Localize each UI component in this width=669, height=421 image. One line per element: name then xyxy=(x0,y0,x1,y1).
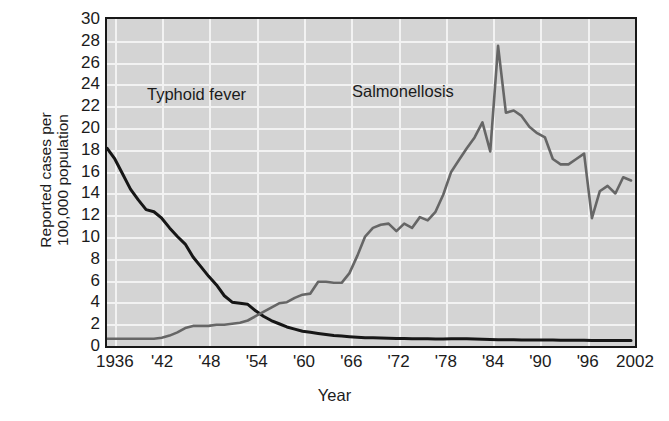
series-lines xyxy=(107,19,635,346)
y-tick-28: 28 xyxy=(48,32,100,49)
y-tick-26: 26 xyxy=(48,54,100,71)
y-tick-30: 30 xyxy=(48,10,100,27)
x-tick-1966: '66 xyxy=(340,352,362,372)
y-tick-16: 16 xyxy=(48,163,100,180)
y-tick-24: 24 xyxy=(48,75,100,92)
plot-inner: Typhoid fever Salmonellosis xyxy=(107,19,635,346)
x-tick-1948: '48 xyxy=(198,352,220,372)
x-axis-ticks: 1936'42'48'54'60'66'72'78'84'90'962002 xyxy=(0,352,669,376)
series-label-salmonellosis: Salmonellosis xyxy=(352,82,454,101)
y-tick-20: 20 xyxy=(48,119,100,136)
x-tick-1972: '72 xyxy=(388,352,410,372)
x-tick-1942: '42 xyxy=(151,352,173,372)
chart-figure: Reported cases per 100,000 population 30… xyxy=(0,0,669,421)
x-tick-2002: 2002 xyxy=(616,352,654,372)
x-tick-1996: '96 xyxy=(577,352,599,372)
y-tick-14: 14 xyxy=(48,184,100,201)
y-tick-4: 4 xyxy=(48,293,100,310)
x-tick-1936: 1936 xyxy=(96,352,134,372)
x-tick-1954: '54 xyxy=(246,352,268,372)
y-tick-12: 12 xyxy=(48,206,100,223)
x-tick-1990: '90 xyxy=(529,352,551,372)
x-axis-title: Year xyxy=(0,386,669,405)
y-tick-18: 18 xyxy=(48,141,100,158)
series-line-typhoid-fever xyxy=(107,148,631,340)
x-tick-1984: '84 xyxy=(482,352,504,372)
x-tick-1960: '60 xyxy=(293,352,315,372)
x-tick-1978: '78 xyxy=(435,352,457,372)
y-tick-10: 10 xyxy=(48,228,100,245)
y-tick-8: 8 xyxy=(48,250,100,267)
series-label-typhoid: Typhoid fever xyxy=(147,85,246,104)
y-tick-2: 2 xyxy=(48,315,100,332)
plot-area: Typhoid fever Salmonellosis xyxy=(105,17,637,348)
y-tick-6: 6 xyxy=(48,272,100,289)
y-tick-22: 22 xyxy=(48,97,100,114)
